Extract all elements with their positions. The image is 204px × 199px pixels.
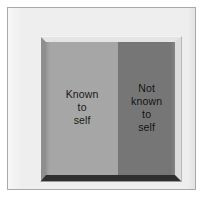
panel-group: Known to self Not known to self — [46, 42, 175, 175]
panel-not-known-to-self[interactable]: Not known to self — [118, 42, 175, 175]
diagram-card: Known to self Not known to self — [7, 7, 196, 190]
panel-known-to-self-label: Known to self — [66, 88, 99, 127]
panel-not-known-to-self-label: Not known to self — [131, 82, 162, 134]
beveled-frame: Known to self Not known to self — [41, 37, 181, 181]
panel-known-to-self[interactable]: Known to self — [46, 42, 118, 175]
diagram-root: Known to self Not known to self — [0, 0, 204, 199]
